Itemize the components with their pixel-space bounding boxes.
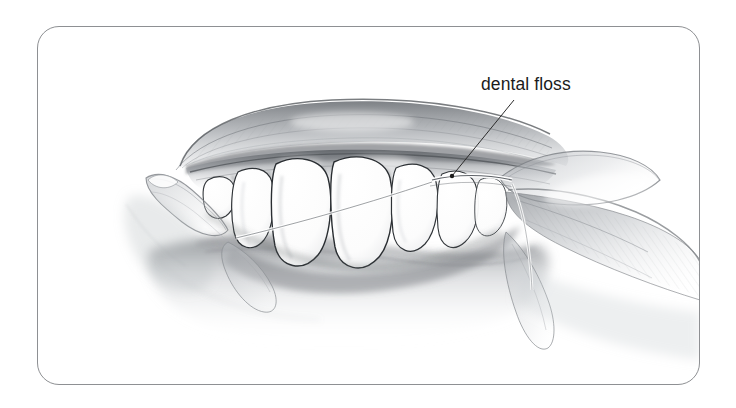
figure-root: dental floss (0, 0, 736, 408)
label-layer: dental floss (0, 0, 736, 408)
dental-floss-label: dental floss (481, 74, 571, 95)
